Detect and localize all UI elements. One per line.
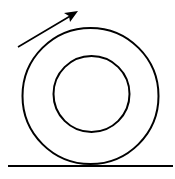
direction-arrow-icon <box>18 15 72 47</box>
arrowhead-icon <box>64 11 78 22</box>
wheel-diagram <box>0 0 175 179</box>
inner-circle <box>54 56 130 132</box>
outer-circle <box>23 28 159 164</box>
